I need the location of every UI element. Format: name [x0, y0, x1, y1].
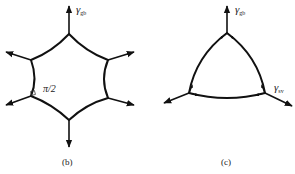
arrow-right-c [265, 93, 292, 106]
caption-c: (c) [221, 157, 231, 167]
diagram-canvas: γgb π/2 (b) γgb γsv (c) [0, 0, 295, 174]
arrow-left-c [164, 93, 189, 103]
arrow-upper-right [108, 52, 134, 60]
tangent-arrow-top-left [221, 33, 227, 38]
gamma-gb-label-c: γgb [235, 3, 245, 16]
angle-label: π/2 [43, 83, 56, 94]
figure-c-triangle: γgb γsv (c) [164, 3, 292, 167]
arrow-upper-left [6, 52, 31, 60]
triangle-boundary [189, 33, 265, 98]
arrow-lower-left [6, 96, 31, 105]
figure-b-hexagon: γgb π/2 (b) [6, 3, 134, 167]
arrow-lower-right [108, 98, 134, 105]
hexagon-boundary [31, 34, 108, 120]
gamma-sv-label: γsv [274, 81, 284, 94]
gamma-gb-label-b: γgb [76, 3, 86, 16]
tangent-arrow-top-right [227, 33, 233, 38]
caption-b: (b) [62, 157, 73, 167]
